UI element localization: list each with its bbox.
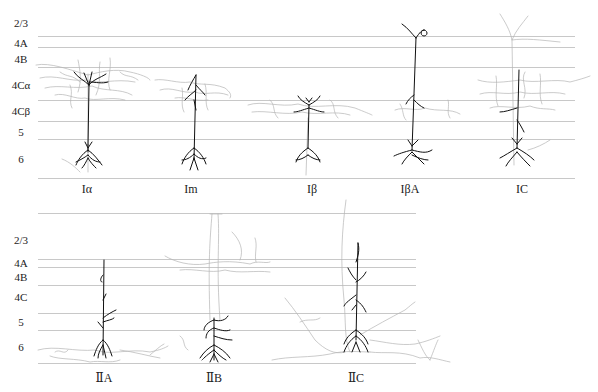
neuron-I-beta — [248, 96, 372, 175]
neuron-IIB — [150, 214, 270, 362]
figure-top-panel: 2/3 4A 4B 4Cα 4Cβ 5 6 Iα Im Iβ IβA IC 2/… — [0, 0, 598, 392]
neuron-Im — [155, 75, 231, 170]
neuron-reconstructions — [0, 0, 598, 392]
neuron-IC — [478, 14, 590, 166]
neuron-I-beta-A — [394, 24, 460, 164]
neuron-IIA — [38, 260, 168, 362]
neuron-IIC — [272, 200, 450, 362]
neuron-I-alpha — [36, 58, 150, 172]
